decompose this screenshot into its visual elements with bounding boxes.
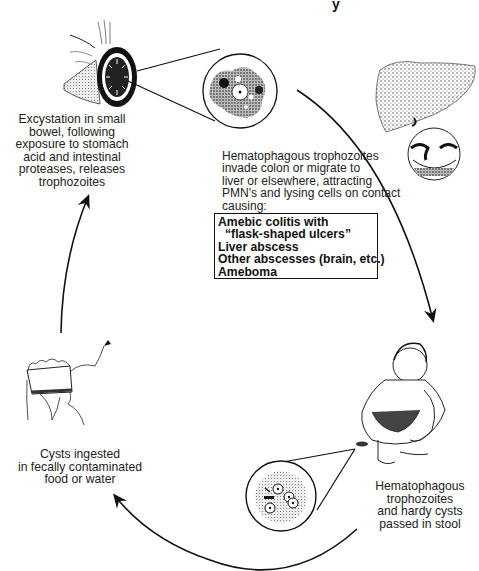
person-drinking-illustration [27,340,111,425]
trophozoite-magnified [203,54,277,128]
invasion-caption: Hematophagous trophozoites invade colon … [222,150,402,212]
arrow-shedding-to-ingestion [115,496,357,570]
shedding-caption: Hematophagous trophozoites and hardy cys… [365,480,475,530]
liver-illustration [376,62,475,132]
zoom-line [283,449,355,462]
zoom-line [128,81,215,121]
conditions-box: Amebic colitis with “flask-shaped ulcers… [214,213,378,279]
flask-ulcer-magnified [408,128,460,180]
ingestion-caption: Cysts ingested in fecally contaminated f… [15,448,145,486]
zoom-line [137,49,220,71]
cyst-magnified [246,461,316,531]
crouching-child-illustration [356,343,445,463]
excystation-caption: Excystation in small bowel, following ex… [8,113,136,189]
condition-item: Other abscesses (brain, etc.) [218,253,377,265]
zoom-line [317,449,355,510]
condition-item: Ameboma [218,266,377,278]
condition-item: “flask-shaped ulcers” [218,228,377,240]
small-bowel-illustration [64,20,137,107]
arrow-ingestion-to-excystation [61,197,88,333]
